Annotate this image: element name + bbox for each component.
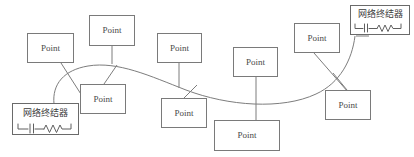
node-point-6-label: Point [246,57,266,67]
node-point-3[interactable]: Point [81,85,126,114]
terminator-right[interactable]: 网络终结器 [351,6,410,35]
diagram-canvas: Point Point Point Point Point Point [0,0,414,157]
node-point-8-label: Point [307,33,327,43]
node-point-1[interactable]: Point [28,34,74,63]
node-point-7-label: Point [237,130,257,140]
node-point-7[interactable]: Point [215,121,280,151]
node-point-9-label: Point [338,100,358,110]
drop-line-point-5 [184,85,197,98]
drop-line-point-3 [104,65,117,84]
node-point-2[interactable]: Point [90,16,135,46]
node-point-6[interactable]: Point [234,48,278,77]
node-point-8[interactable]: Point [295,24,340,53]
terminator-left-label: 网络终结器 [23,107,68,118]
network-topology-diagram: Point Point Point Point Point Point [0,0,414,157]
node-point-3-label: Point [93,94,113,104]
node-point-9[interactable]: Point [326,91,371,120]
terminator-right-label: 网络终结器 [358,8,403,19]
drop-line-point-8 [314,53,348,92]
node-point-4[interactable]: Point [158,34,202,63]
node-point-5[interactable]: Point [162,99,207,128]
node-point-4-label: Point [170,43,190,53]
terminator-left[interactable]: 网络终结器 [13,104,79,135]
node-point-2-label: Point [102,25,122,35]
node-point-5-label: Point [174,108,194,118]
node-point-1-label: Point [41,43,61,53]
